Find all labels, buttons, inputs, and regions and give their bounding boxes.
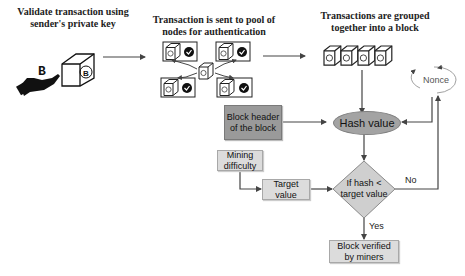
mining-difficulty-box: Mining difficulty [217,150,263,171]
yes-label: Yes [369,221,384,231]
box-text: of the block [227,123,280,134]
hand-bitcoin-icon: B [16,64,60,96]
box-text: Target [273,179,298,190]
box-text: value [273,190,298,201]
block-verified-box: Block verified by miners [329,240,399,263]
no-text: No [405,175,417,185]
decision-text: If hash < target value [336,178,392,200]
svg-text:B: B [83,69,89,78]
nonce-text: Nonce [423,75,449,85]
yes-text: Yes [369,221,384,231]
no-label: No [405,175,417,185]
box-text: Block verified [337,241,391,252]
box-text: Mining [224,150,256,161]
block-chain-icon [324,46,392,65]
box-text: If hash < [340,178,387,189]
arrow-nonce-to-hash [402,97,432,122]
box-text: by miners [337,252,391,263]
box-text: difficulty [224,161,256,172]
arrow-difficulty-to-target [240,171,261,189]
block-header-box: Block header of the block [224,105,282,140]
svg-text:B: B [38,64,46,79]
box-text: target value [340,189,387,200]
target-value-box: Target value [262,179,310,200]
hash-value-text: Hash value [339,117,394,129]
hash-value-ellipse: Hash value [333,111,401,135]
box-text: Block header [227,112,280,123]
nonce-label: Nonce [423,75,449,85]
bitcoin-block-icon: B [62,54,94,86]
node-pool-icon [161,42,252,97]
